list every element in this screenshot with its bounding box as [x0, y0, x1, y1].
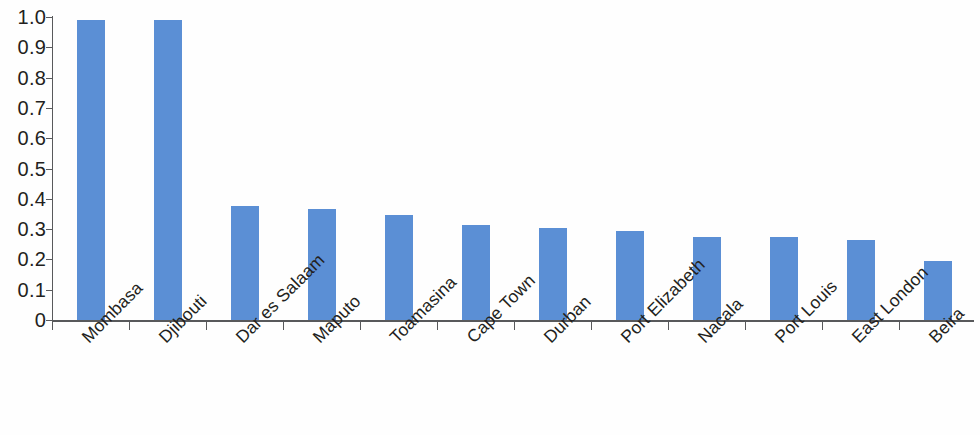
x-tick-label: Maputo: [310, 292, 364, 346]
x-tick-label: Nacala: [695, 295, 746, 346]
bar-chart: 00.10.20.30.40.50.60.70.80.91.0 MombasaD…: [0, 0, 980, 435]
x-tick-label: Beira: [926, 305, 968, 347]
x-tick-label: Port Louis: [772, 278, 841, 347]
x-tick-label: Djibouti: [156, 292, 210, 346]
x-tick-label: Cape Town: [464, 272, 539, 347]
x-tick-label: Durban: [541, 293, 594, 346]
x-tick-label: East London: [849, 264, 932, 347]
x-axis-labels: MombasaDjiboutiDar es SalaamMaputoToamas…: [0, 0, 980, 435]
x-tick-label: Toamasina: [387, 274, 460, 347]
x-tick-label: Mombasa: [79, 279, 146, 346]
